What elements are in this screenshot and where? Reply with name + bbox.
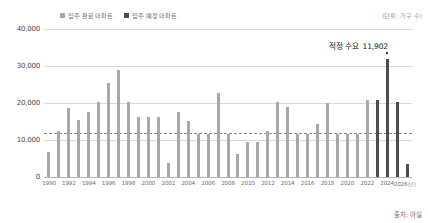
x-tick-label-2024: 2024 <box>380 180 394 186</box>
y-tick-label-10000: 10,000 <box>17 136 40 144</box>
x-tick-label-1996: 1996 <box>102 180 116 186</box>
x-tick-label-2000: 2000 <box>142 180 156 186</box>
bar-1992 <box>67 108 70 177</box>
bar-1994 <box>87 112 90 177</box>
bar-2015 <box>296 134 299 177</box>
x-tick-label-2022: 2022 <box>360 180 374 186</box>
x-tick-label-1994: 1994 <box>82 180 96 186</box>
x-axis: 1990199219941996199820002002200420062008… <box>44 180 412 194</box>
bar-2024 <box>386 59 389 177</box>
bar-2018 <box>326 103 329 177</box>
bar-2021 <box>356 134 359 177</box>
x-tick-label-2006: 2006 <box>201 180 215 186</box>
x-tick-label-2016: 2016 <box>301 180 315 186</box>
x-tick-label-2012: 2012 <box>261 180 275 186</box>
bar-2026 <box>406 164 409 177</box>
bar-2025 <box>396 102 399 177</box>
bar-2005 <box>197 134 200 177</box>
y-tick-label-30000: 30,000 <box>17 62 40 70</box>
bar-2000 <box>147 117 150 177</box>
bar-2014 <box>286 107 289 177</box>
y-axis: 010,00020,00030,00040,000 <box>0 29 40 177</box>
x-tick-label-1990: 1990 <box>42 180 56 186</box>
bar-2022 <box>366 100 369 177</box>
legend-item-scheduled: 입주 예정 아파트 <box>124 11 177 20</box>
bar-1999 <box>137 117 140 177</box>
bar-1991 <box>57 131 60 177</box>
annotation-value: 11,902 <box>363 42 388 51</box>
unit-label: (단위: 가구 수) <box>382 11 422 20</box>
legend-label-scheduled: 입주 예정 아파트 <box>132 11 177 20</box>
x-tick-label-1998: 1998 <box>122 180 136 186</box>
x-tick-label-1992: 1992 <box>62 180 76 186</box>
source-label: 출처: 아실 <box>394 210 422 219</box>
legend-swatch-completed <box>60 13 65 18</box>
chart-legend: 입주 완료 아파트 입주 예정 아파트 <box>60 11 177 20</box>
x-tick-label-2020: 2020 <box>341 180 355 186</box>
plot-area <box>44 29 412 177</box>
bar-2009 <box>236 154 239 177</box>
threshold-annotation: 적정 수요11,902 <box>329 40 388 51</box>
bar-2004 <box>187 121 190 177</box>
bar-2010 <box>246 142 249 177</box>
x-tick-label-2010: 2010 <box>241 180 255 186</box>
legend-swatch-scheduled <box>124 13 129 18</box>
bar-1998 <box>127 102 130 177</box>
bar-2013 <box>276 102 279 177</box>
bar-2001 <box>157 117 160 177</box>
bar-2008 <box>227 134 230 177</box>
bar-2006 <box>207 134 210 177</box>
bar-2020 <box>346 134 349 177</box>
y-tick-label-0: 0 <box>36 173 40 181</box>
x-tick-label-2018: 2018 <box>321 180 335 186</box>
bar-1997 <box>117 70 120 177</box>
bar-2016 <box>306 134 309 177</box>
bar-1996 <box>107 83 110 177</box>
legend-label-completed: 입주 완료 아파트 <box>68 11 113 20</box>
y-tick-label-40000: 40,000 <box>17 25 40 33</box>
x-axis-unit-label: (년) <box>407 181 415 187</box>
bar-1995 <box>97 102 100 177</box>
x-tick-label-2014: 2014 <box>281 180 295 186</box>
bar-2002 <box>167 163 170 177</box>
bar-2019 <box>336 134 339 177</box>
bar-2007 <box>217 93 220 177</box>
bar-2023 <box>376 100 379 177</box>
chart-container: 입주 완료 아파트 입주 예정 아파트 (단위: 가구 수) 010,00020… <box>0 0 428 223</box>
x-tick-label-2002: 2002 <box>161 180 175 186</box>
bar-2012 <box>266 131 269 177</box>
x-tick-label-2026: 2026(년) <box>394 180 416 187</box>
bar-2003 <box>177 112 180 177</box>
legend-item-completed: 입주 완료 아파트 <box>60 11 113 20</box>
x-tick-label-2004: 2004 <box>181 180 195 186</box>
y-tick-label-20000: 20,000 <box>17 99 40 107</box>
gridline-0 <box>44 177 412 178</box>
bar-1990 <box>47 152 50 177</box>
bar-2011 <box>256 142 259 177</box>
x-tick-label-2008: 2008 <box>221 180 235 186</box>
annotation-text: 적정 수요 <box>329 42 358 51</box>
bar-2017 <box>316 124 319 177</box>
bar-1993 <box>77 120 80 177</box>
bar-series <box>44 29 412 177</box>
annotation-marker-dot <box>386 52 388 54</box>
